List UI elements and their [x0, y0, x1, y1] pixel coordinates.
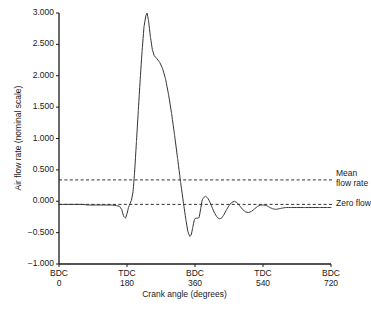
x-tick-value: 720 [301, 278, 361, 288]
x-tick-value: 180 [97, 278, 157, 288]
x-tick-label: BDC720 [301, 268, 361, 288]
x-tick-marker: BDC [165, 268, 225, 278]
y-tick-label: −0.500 [10, 228, 54, 237]
y-axis-title: Air flow rate (nominal scale) [13, 63, 23, 213]
x-tick-value: 540 [233, 278, 293, 288]
y-tick-label: 2.500 [10, 39, 54, 48]
x-tick-label: BDC360 [165, 268, 225, 288]
x-tick-marker: BDC [29, 268, 89, 278]
zero-flow-annotation: Zero flow [336, 198, 371, 208]
x-tick-marker: BDC [301, 268, 361, 278]
x-tick-marker: TDC [233, 268, 293, 278]
y-tick-label: −1.000 [10, 259, 54, 268]
x-tick-value: 360 [165, 278, 225, 288]
mean-flow-rate-label-line1: Mean [336, 168, 357, 178]
y-tick-label: 3.000 [10, 8, 54, 17]
x-tick-label: BDC0 [29, 268, 89, 288]
x-tick-label: TDC540 [233, 268, 293, 288]
mean-flow-rate-annotation: Mean flow rate [336, 168, 368, 188]
x-tick-label: TDC180 [97, 268, 157, 288]
reference-lines [59, 180, 334, 204]
zero-flow-label: Zero flow [336, 198, 371, 208]
mean-flow-rate-label-line2: flow rate [336, 178, 368, 188]
x-tick-marker: TDC [97, 268, 157, 278]
x-tick-value: 0 [29, 278, 89, 288]
x-axis-title: Crank angle (degrees) [0, 289, 369, 299]
air-flow-rate-curve [59, 13, 331, 236]
